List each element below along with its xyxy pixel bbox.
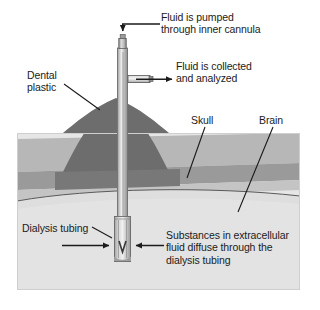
label-dental-plastic: Dental plastic: [27, 69, 57, 94]
inlet-hub: [119, 38, 127, 49]
inlet-port-icon: [120, 35, 125, 39]
label-dialysis-tubing: Dialysis tubing: [22, 222, 88, 234]
dialysis-tubing-sleeve: [114, 216, 131, 262]
label-skull: Skull: [191, 114, 213, 126]
label-brain: Brain: [259, 114, 283, 126]
label-substances-diffuse: Substances in extracellular fluid diffus…: [166, 229, 289, 266]
label-fluid-pumped: Fluid is pumped through inner cannula: [161, 11, 260, 36]
label-fluid-collected: Fluid is collected and analyzed: [176, 60, 252, 85]
